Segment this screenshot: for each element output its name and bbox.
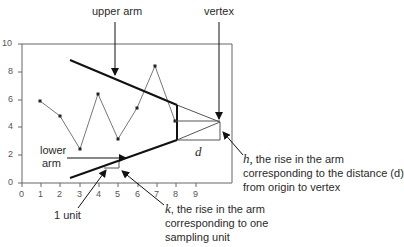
h-line-2: corresponding to the distance (d) bbox=[243, 166, 404, 180]
x-tick-2: 2 bbox=[57, 189, 62, 199]
h-line-3: from origin to vertex bbox=[243, 180, 404, 194]
data-series-line bbox=[40, 66, 175, 149]
upper-arm-label: upper arm bbox=[92, 4, 142, 18]
x-tick-0: 0 bbox=[19, 189, 24, 199]
lower-arm-label-1: lower bbox=[40, 143, 66, 157]
y-tick-10: 10 bbox=[2, 38, 12, 48]
upper-arm-extension bbox=[177, 105, 220, 122]
h-line-1: the rise in the arm bbox=[253, 153, 344, 165]
x-tick-7: 7 bbox=[154, 189, 159, 199]
h-arrow bbox=[223, 132, 243, 155]
y-tick-6: 6 bbox=[8, 94, 13, 104]
k-arrow bbox=[122, 171, 164, 205]
x-tick-1: 1 bbox=[38, 189, 43, 199]
x-tick-8: 8 bbox=[173, 189, 178, 199]
k-annotation: k, the rise in the arm corresponding to … bbox=[165, 202, 268, 244]
y-tick-8: 8 bbox=[8, 66, 13, 76]
k-line-1: , the rise in the arm bbox=[171, 203, 265, 215]
h-symbol: h, bbox=[243, 151, 253, 166]
x-tick-4: 4 bbox=[96, 189, 101, 199]
y-tick-2: 2 bbox=[8, 149, 13, 159]
vertex-label: vertex bbox=[204, 4, 234, 18]
k-line-2: corresponding to one bbox=[165, 216, 268, 230]
d-label: d bbox=[195, 145, 202, 159]
one-unit-label: 1 unit bbox=[54, 208, 81, 222]
one-unit-arrow bbox=[78, 170, 106, 208]
x-tick-9: 9 bbox=[193, 189, 198, 199]
y-tick-0: 0 bbox=[8, 177, 13, 187]
x-axis-ticks bbox=[22, 183, 196, 187]
y-axis-ticks bbox=[18, 44, 22, 183]
h-annotation: h, the rise in the arm corresponding to … bbox=[243, 152, 404, 194]
x-tick-6: 6 bbox=[135, 189, 140, 199]
lower-arm-extension bbox=[177, 122, 220, 140]
data-points bbox=[39, 65, 177, 151]
lower-arm-label-2: arm bbox=[42, 156, 61, 170]
x-tick-3: 3 bbox=[77, 189, 82, 199]
x-tick-5: 5 bbox=[115, 189, 120, 199]
k-line-3: sampling unit bbox=[165, 230, 268, 244]
y-tick-4: 4 bbox=[8, 121, 13, 131]
